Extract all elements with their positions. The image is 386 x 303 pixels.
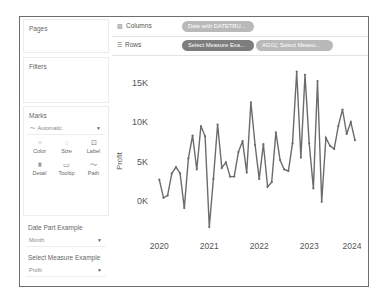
data-point[interactable] bbox=[350, 121, 352, 123]
color-button[interactable]: ⁘ Color bbox=[26, 138, 53, 160]
x-tick-label: 2020 bbox=[150, 241, 169, 251]
columns-icon: ▥ bbox=[117, 23, 123, 29]
data-point[interactable] bbox=[237, 151, 239, 153]
detail-label: Detail bbox=[32, 170, 46, 176]
data-point[interactable] bbox=[183, 207, 185, 209]
data-point[interactable] bbox=[167, 194, 169, 196]
columns-label: ▥Columns bbox=[117, 22, 152, 29]
rows-label: ☰Rows bbox=[117, 41, 141, 48]
chevron-down-icon: ▼ bbox=[97, 265, 102, 276]
data-point[interactable] bbox=[192, 134, 194, 136]
data-point[interactable] bbox=[258, 178, 260, 180]
data-point[interactable] bbox=[241, 140, 243, 142]
select-measure-title: Select Measure Example bbox=[28, 254, 100, 261]
tableau-worksheet: Pages Filters Marks 〜 Automatic ▼ ⁘ Colo… bbox=[19, 16, 369, 287]
data-point[interactable] bbox=[325, 137, 327, 139]
data-point[interactable] bbox=[308, 142, 310, 144]
y-tick-label: 10K bbox=[132, 117, 148, 127]
rows-icon: ☰ bbox=[117, 42, 122, 48]
data-point[interactable] bbox=[162, 197, 164, 199]
data-point[interactable] bbox=[179, 172, 181, 174]
x-tick-label: 2021 bbox=[200, 241, 219, 251]
data-point[interactable] bbox=[212, 178, 214, 180]
date-part-title: Date Part Example bbox=[28, 224, 83, 231]
select-measure-value: Profit bbox=[29, 267, 42, 273]
y-axis: 0K5K10K15K bbox=[132, 78, 148, 206]
tooltip-label: Tooltip bbox=[59, 170, 75, 176]
data-point[interactable] bbox=[296, 71, 298, 73]
columns-label-text: Columns bbox=[126, 22, 152, 29]
data-point[interactable] bbox=[221, 167, 223, 169]
tooltip-button[interactable]: ▭ Tooltip bbox=[53, 160, 80, 182]
data-point[interactable] bbox=[354, 139, 356, 141]
pages-card[interactable]: Pages bbox=[23, 19, 109, 53]
date-part-dropdown[interactable]: Month ▼ bbox=[26, 235, 106, 247]
x-tick-label: 2022 bbox=[250, 241, 269, 251]
data-point[interactable] bbox=[291, 142, 293, 144]
data-point[interactable] bbox=[271, 181, 273, 183]
columns-pill-date[interactable]: Date with DATETRU... bbox=[182, 21, 254, 32]
data-point[interactable] bbox=[333, 148, 335, 150]
data-point[interactable] bbox=[266, 186, 268, 188]
rows-pill-select-measure[interactable]: Select Measure Exa... bbox=[182, 40, 254, 51]
data-point[interactable] bbox=[321, 201, 323, 203]
tooltip-icon: ▭ bbox=[53, 160, 80, 170]
data-point[interactable] bbox=[200, 125, 202, 127]
size-button[interactable]: ◌ Size bbox=[53, 138, 80, 160]
data-point[interactable] bbox=[300, 157, 302, 159]
y-axis-title: Profit bbox=[115, 151, 124, 169]
rows-shelf[interactable]: ☰Rows Select Measure Exa... AGG(: Select… bbox=[112, 36, 368, 56]
data-point[interactable] bbox=[346, 133, 348, 135]
mark-type-dropdown[interactable]: 〜 Automatic ▼ bbox=[27, 123, 105, 135]
marks-title: Marks bbox=[29, 112, 47, 119]
data-point[interactable] bbox=[229, 175, 231, 177]
y-tick-label: 15K bbox=[132, 78, 148, 88]
data-point[interactable] bbox=[216, 123, 218, 125]
color-label: Color bbox=[33, 148, 46, 154]
data-point[interactable] bbox=[254, 144, 256, 146]
path-button[interactable]: 〜 Path bbox=[80, 160, 107, 182]
data-point[interactable] bbox=[171, 172, 173, 174]
data-point[interactable] bbox=[304, 74, 306, 76]
columns-shelf[interactable]: ▥Columns Date with DATETRU... bbox=[112, 17, 368, 37]
filters-card[interactable]: Filters bbox=[23, 57, 109, 103]
data-points bbox=[158, 71, 356, 229]
detail-button[interactable]: ⩩ Detail bbox=[26, 160, 53, 182]
data-point[interactable] bbox=[341, 108, 343, 110]
data-point[interactable] bbox=[316, 80, 318, 82]
color-icon: ⁘ bbox=[26, 138, 53, 148]
data-point[interactable] bbox=[283, 168, 285, 170]
data-point[interactable] bbox=[250, 101, 252, 103]
data-point[interactable] bbox=[279, 159, 281, 161]
profit-line bbox=[159, 72, 355, 227]
x-axis: 20202021202220232024 bbox=[150, 241, 362, 251]
y-tick-label: 5K bbox=[137, 157, 148, 167]
date-part-parameter: Date Part Example Month ▼ bbox=[23, 219, 109, 249]
line-chart: 0K5K10K15K 20202021202220232024 Profit bbox=[112, 57, 368, 286]
x-tick-label: 2023 bbox=[300, 241, 319, 251]
data-point[interactable] bbox=[204, 135, 206, 137]
data-point[interactable] bbox=[175, 166, 177, 168]
chevron-down-icon: ▼ bbox=[96, 123, 101, 134]
data-point[interactable] bbox=[246, 172, 248, 174]
data-point[interactable] bbox=[337, 125, 339, 127]
data-point[interactable] bbox=[233, 175, 235, 177]
data-point[interactable] bbox=[158, 179, 160, 181]
rows-pill-agg-select-measure[interactable]: AGG(: Select Measu... bbox=[256, 40, 333, 51]
data-point[interactable] bbox=[225, 161, 227, 163]
marks-card: Marks 〜 Automatic ▼ ⁘ Color ◌ Size ⊡ Lab… bbox=[23, 106, 109, 216]
data-point[interactable] bbox=[262, 143, 264, 145]
data-point[interactable] bbox=[287, 170, 289, 172]
data-point[interactable] bbox=[196, 168, 198, 170]
data-point[interactable] bbox=[329, 145, 331, 147]
label-button[interactable]: ⊡ Label bbox=[80, 138, 107, 160]
data-point[interactable] bbox=[187, 157, 189, 159]
data-point[interactable] bbox=[312, 187, 314, 189]
select-measure-dropdown[interactable]: Profit ▼ bbox=[26, 265, 106, 277]
path-icon: 〜 bbox=[80, 160, 107, 170]
data-point[interactable] bbox=[208, 226, 210, 228]
detail-icon: ⩩ bbox=[26, 160, 53, 170]
size-icon: ◌ bbox=[53, 138, 80, 148]
data-point[interactable] bbox=[275, 131, 277, 133]
label-label: Label bbox=[87, 148, 100, 154]
